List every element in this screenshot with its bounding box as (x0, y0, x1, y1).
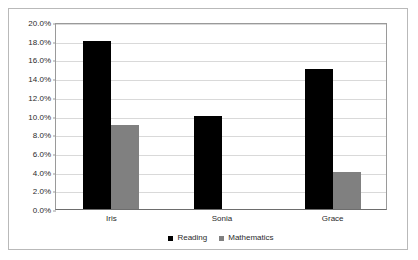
y-axis-tick-mark (53, 98, 56, 99)
chart-frame: 0.0%2.0%4.0%6.0%8.0%10.0%12.0%14.0%16.0%… (8, 8, 408, 250)
legend-entry-reading: Reading (168, 234, 207, 242)
y-axis-tick-label: 20.0% (28, 20, 51, 28)
y-axis-tick-label: 8.0% (33, 132, 51, 140)
legend-label: Reading (177, 234, 207, 242)
y-axis-tick-label: 18.0% (28, 39, 51, 47)
y-axis-tick-label: 14.0% (28, 76, 51, 84)
y-axis-tick-label: 16.0% (28, 57, 51, 65)
y-axis-tick-mark (53, 192, 56, 193)
gridline (56, 24, 386, 25)
bar-mathematics-iris (111, 125, 139, 209)
bar-reading-sonia (194, 116, 222, 210)
y-axis-tick-mark (53, 24, 56, 25)
y-axis-tick-mark (53, 136, 56, 137)
y-axis-tick-label: 2.0% (33, 188, 51, 196)
x-axis-label-iris: Iris (106, 215, 117, 223)
y-axis-tick-mark (53, 154, 56, 155)
y-axis-tick-mark (53, 61, 56, 62)
y-axis-tick-label: 6.0% (33, 151, 51, 159)
y-axis-tick-label: 12.0% (28, 95, 51, 103)
x-axis-label-sonia: Sonia (212, 215, 232, 223)
y-axis-tick-mark (53, 211, 56, 212)
legend-label: Mathematics (228, 234, 273, 242)
y-axis-tick-label: 0.0% (33, 207, 51, 215)
legend-swatch-mathematics-icon (219, 236, 224, 241)
y-axis-tick-mark (53, 117, 56, 118)
gridline (56, 211, 386, 212)
y-axis-tick-label: 10.0% (28, 114, 51, 122)
legend-entry-mathematics: Mathematics (219, 234, 273, 242)
y-axis-tick-mark (53, 80, 56, 81)
legend-swatch-reading-icon (168, 236, 173, 241)
y-axis-tick-label: 4.0% (33, 170, 51, 178)
y-axis-tick-mark (53, 42, 56, 43)
plot-area: 0.0%2.0%4.0%6.0%8.0%10.0%12.0%14.0%16.0%… (55, 23, 387, 210)
bar-reading-grace (305, 69, 333, 209)
chart-legend: ReadingMathematics (55, 234, 387, 242)
bar-mathematics-grace (333, 172, 361, 209)
y-axis-tick-mark (53, 173, 56, 174)
bar-reading-iris (83, 41, 111, 209)
x-axis-label-grace: Grace (322, 215, 344, 223)
